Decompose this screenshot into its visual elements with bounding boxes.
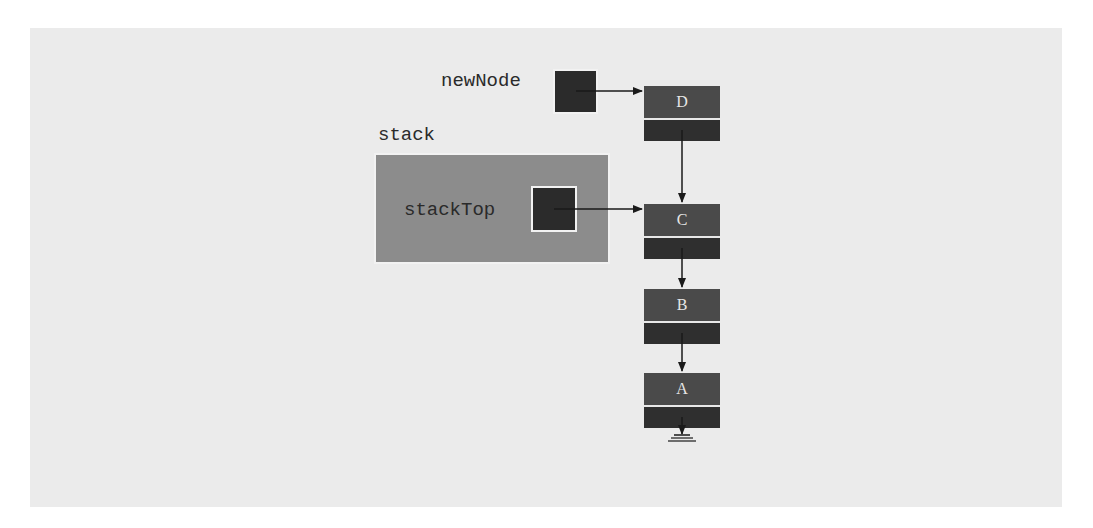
null-ground-icon — [668, 417, 696, 441]
arrows-layer — [0, 0, 1093, 528]
